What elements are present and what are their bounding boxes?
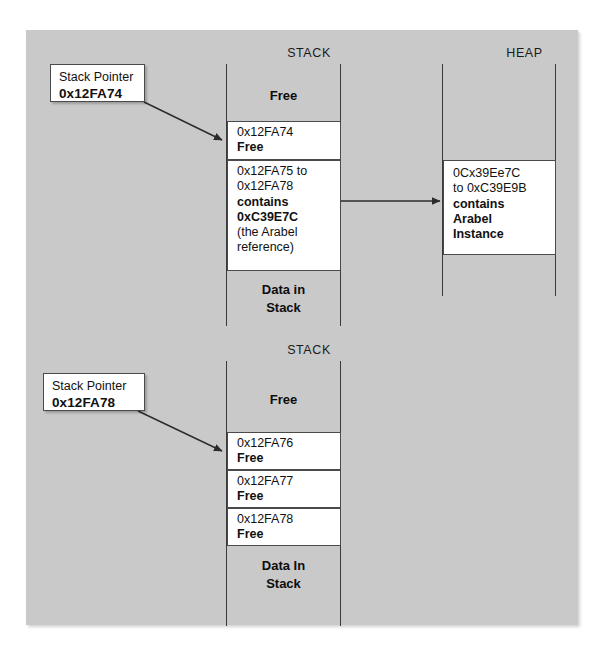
- upper-heap-column-header: HEAP: [468, 46, 581, 60]
- stack-pointer-callout-upper-address: 0x12FA74: [59, 85, 136, 103]
- upper-stack-data-line2: Stack: [266, 299, 301, 317]
- stack-pointer-arrow-upper: [144, 102, 222, 140]
- upper-stack-cell-free: Free: [227, 70, 340, 121]
- memory-diagram-panel: STACK HEAP Free 0x12FA74 Free 0x12FA75 t…: [26, 30, 578, 625]
- upper-stack-range-line3: contains: [237, 195, 340, 210]
- lower-stack-0x12FA78-state: Free: [237, 527, 340, 542]
- upper-stack-range-line5: (the Arabel: [237, 225, 340, 240]
- upper-stack-data-line1: Data in: [262, 281, 305, 299]
- upper-stack-0x12FA74-address: 0x12FA74: [237, 125, 340, 140]
- stack-pointer-arrow-lower: [138, 411, 222, 451]
- upper-stack-range-line1: 0x12FA75 to: [237, 164, 340, 179]
- heap-line3: contains: [453, 197, 555, 212]
- heap-cell-arabel-instance: 0Cx39Ee7C to 0xC39E9B contains Arabel In…: [443, 160, 556, 255]
- lower-stack-0x12FA76-state: Free: [237, 451, 340, 466]
- lower-stack-data-line1: Data In: [262, 557, 305, 575]
- lower-stack-cell-0x12FA78: 0x12FA78 Free: [227, 508, 341, 546]
- lower-stack-cell-0x12FA77: 0x12FA77 Free: [227, 470, 341, 508]
- upper-stack-range-line4: 0xC39E7C: [237, 210, 340, 225]
- upper-stack-range-line2: 0x12FA78: [237, 179, 340, 194]
- lower-stack-cell-free: Free: [227, 367, 340, 432]
- lower-stack-cell-data-in-stack: Data In Stack: [227, 546, 340, 604]
- stack-pointer-callout-lower: Stack Pointer 0x12FA78: [43, 373, 145, 411]
- stack-pointer-callout-upper-title: Stack Pointer: [59, 69, 136, 85]
- lower-stack-0x12FA77-state: Free: [237, 489, 340, 504]
- lower-stack-free-label: Free: [270, 391, 297, 409]
- heap-line4: Arabel: [453, 212, 555, 227]
- lower-stack-0x12FA78-address: 0x12FA78: [237, 512, 340, 527]
- lower-stack-column-header: STACK: [252, 343, 366, 357]
- lower-stack-0x12FA77-address: 0x12FA77: [237, 474, 340, 489]
- heap-line2: to 0xC39E9B: [453, 181, 555, 196]
- upper-stack-0x12FA74-state: Free: [237, 140, 340, 155]
- stack-pointer-callout-lower-address: 0x12FA78: [52, 394, 136, 412]
- stack-pointer-callout-upper: Stack Pointer 0x12FA74: [50, 64, 145, 102]
- stack-pointer-callout-lower-title: Stack Pointer: [52, 378, 136, 394]
- upper-stack-cell-0x12FA74: 0x12FA74 Free: [227, 121, 341, 160]
- lower-stack-data-line2: Stack: [266, 575, 301, 593]
- upper-stack-cell-range-0x12FA75-0x12FA78: 0x12FA75 to 0x12FA78 contains 0xC39E7C (…: [227, 160, 341, 271]
- upper-stack-range-line6: reference): [237, 240, 340, 255]
- lower-stack-0x12FA76-address: 0x12FA76: [237, 436, 340, 451]
- heap-line1: 0Cx39Ee7C: [453, 166, 555, 181]
- upper-stack-cell-data-in-stack: Data in Stack: [227, 271, 340, 326]
- heap-line5: Instance: [453, 227, 555, 242]
- upper-stack-free-label: Free: [270, 87, 297, 105]
- lower-stack-cell-0x12FA76: 0x12FA76 Free: [227, 432, 341, 470]
- upper-stack-column-header: STACK: [252, 46, 366, 60]
